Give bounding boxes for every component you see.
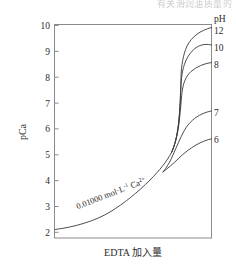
ytick-label-9: 9 [45, 47, 50, 57]
concentration-annotation: 0.01000 mol·L-1 Ca2+ [75, 175, 148, 211]
ytick-label-4: 4 [45, 176, 50, 186]
ytick-label-5: 5 [45, 150, 50, 160]
ytick-label-6: 6 [45, 124, 50, 134]
ph-label-8: 8 [214, 60, 219, 70]
ph-legend-title: pH [214, 14, 226, 24]
y-axis-label: pCa [17, 123, 28, 140]
concentration-value: 0.01000 [75, 192, 104, 211]
ph-label-7: 7 [214, 108, 219, 118]
curve-ph-12 [55, 28, 212, 230]
ytick-label-3: 3 [45, 202, 50, 212]
ph-label-6: 6 [214, 135, 219, 145]
ytick-label-8: 8 [45, 73, 50, 83]
ytick-label-2: 2 [45, 228, 50, 238]
ph-label-10: 10 [214, 43, 224, 53]
figure-container: 有关滑润油质量的 10 9 8 7 6 5 4 3 2 pCa EDTA 加入量 [0, 0, 236, 276]
curve-ph-8 [172, 63, 212, 153]
ph-label-12: 12 [214, 26, 224, 36]
ytick-label-7: 7 [45, 99, 50, 109]
ytick-label-10: 10 [41, 21, 51, 31]
x-axis-label: EDTA 加入量 [104, 247, 162, 258]
y-axis-ticks [55, 26, 59, 233]
curve-ph-10 [172, 44, 212, 152]
curve-ph-7 [163, 111, 212, 172]
concentration-species-charge: 2+ [138, 175, 147, 183]
titration-curve-chart: 10 9 8 7 6 5 4 3 2 pCa EDTA 加入量 pH 12 10… [0, 0, 236, 276]
